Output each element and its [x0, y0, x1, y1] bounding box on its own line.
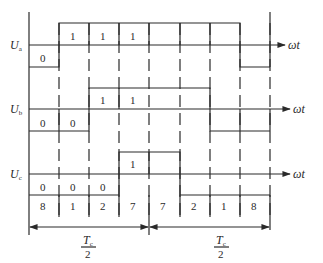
- ub-state-1: 0: [70, 117, 76, 129]
- uc-state-2: 0: [100, 181, 106, 193]
- label-uc: Uc: [10, 167, 22, 182]
- ua-state-3: 1: [130, 30, 136, 42]
- uc-state-0: 0: [40, 181, 46, 193]
- ub-state-3: 1: [130, 94, 136, 106]
- ua-state-2: 1: [100, 30, 106, 42]
- svg-text:Tc: Tc: [216, 233, 226, 248]
- sector-7: 8: [251, 200, 257, 212]
- uc-state-3: 1: [130, 158, 136, 170]
- ub-state-2: 1: [100, 94, 106, 106]
- label-ua: Ua: [10, 38, 23, 53]
- signal-ub: [29, 88, 290, 131]
- ua-state-0: 0: [40, 52, 46, 64]
- timing-diagram: Ua 0 1 1 1 ωt Ub 0 0 1 1 ωt Uc 0 0 0 1 ω…: [0, 0, 323, 263]
- sector-5: 2: [191, 200, 197, 212]
- uc-state-1: 0: [70, 181, 76, 193]
- grid-dashes: [59, 23, 270, 215]
- axis-label-uc: ωt: [293, 167, 305, 181]
- label-ub: Ub: [10, 102, 23, 117]
- axis-label-ub: ωt: [293, 102, 305, 116]
- sector-1: 1: [70, 200, 76, 212]
- sector-0: 8: [40, 200, 46, 212]
- signal-ua: [29, 12, 285, 67]
- axis-label-ua: ωt: [288, 38, 300, 52]
- period-label-right: Tc 2: [214, 233, 229, 260]
- sector-2: 2: [100, 200, 106, 212]
- sector-4: 7: [160, 200, 166, 212]
- svg-text:2: 2: [218, 248, 224, 260]
- svg-text:Tc: Tc: [83, 233, 93, 248]
- sector-3: 7: [130, 200, 136, 212]
- sector-6: 1: [221, 200, 227, 212]
- period-label-left: Tc 2: [81, 233, 96, 260]
- ua-state-1: 1: [70, 30, 76, 42]
- signal-uc: [29, 152, 290, 195]
- ub-state-0: 0: [40, 117, 46, 129]
- svg-text:2: 2: [85, 248, 91, 260]
